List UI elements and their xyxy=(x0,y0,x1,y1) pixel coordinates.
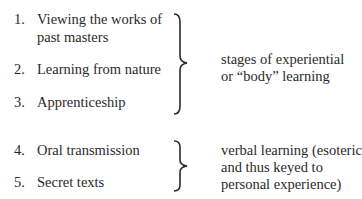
annotation-line: stages of experiential xyxy=(221,51,344,68)
item-text: Apprenticeship xyxy=(37,94,126,111)
annotation-verbal: verbal learning (esoteric and thus keyed… xyxy=(221,142,362,193)
item-text: Secret texts xyxy=(37,174,104,191)
item-number: 4. xyxy=(14,142,28,159)
item-text: Viewing the works of xyxy=(37,11,162,28)
right-brace-icon xyxy=(172,12,192,116)
item-number: 5. xyxy=(14,174,28,191)
item-text: past masters xyxy=(37,29,108,46)
right-brace-icon xyxy=(172,139,192,193)
item-number: 2. xyxy=(14,61,28,78)
item-number: 1. xyxy=(14,11,28,28)
item-text: Oral transmission xyxy=(37,142,140,159)
annotation-line: or “body” learning xyxy=(221,68,344,85)
annotation-line: verbal learning (esoteric xyxy=(221,142,362,159)
annotation-line: personal experience) xyxy=(221,176,362,193)
annotation-line: and thus keyed to xyxy=(221,159,362,176)
item-text: Learning from nature xyxy=(37,61,161,78)
item-number: 3. xyxy=(14,94,28,111)
annotation-experiential: stages of experiential or “body” learnin… xyxy=(221,51,344,85)
